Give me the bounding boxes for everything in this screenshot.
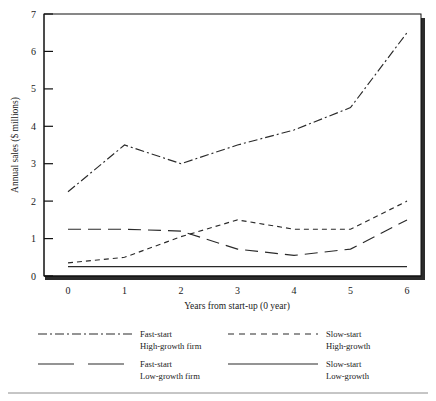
legend-label-line2: High-growth firm — [140, 341, 202, 351]
legend-label-line2: High-growth — [326, 341, 371, 351]
x-tick-label: 6 — [405, 285, 410, 296]
x-tick-label: 5 — [348, 285, 353, 296]
legend-label-line2: Low-growth firm — [140, 371, 200, 381]
y-tick-label: 1 — [31, 233, 36, 244]
frame-shadow-bottom — [45, 276, 425, 280]
x-tick-label: 1 — [122, 285, 127, 296]
x-axis-title: Years from start-up (0 year) — [184, 301, 290, 312]
legend-label-line1: Fast-start — [140, 359, 173, 369]
y-tick-label: 7 — [31, 9, 36, 20]
y-axis-title: Annual sales ($ millions) — [10, 97, 21, 193]
y-tick-label: 6 — [31, 46, 36, 57]
y-tick-label: 0 — [31, 271, 36, 282]
frame-shadow-right — [421, 18, 425, 280]
x-tick-label: 2 — [179, 285, 184, 296]
y-tick-label: 3 — [31, 158, 36, 169]
x-tick-label: 4 — [292, 285, 297, 296]
chart-figure: 0 1 2 3 4 5 6 7 0 1 2 3 4 5 6 Annual sal… — [0, 0, 436, 401]
x-tick-label: 0 — [66, 285, 71, 296]
y-tick-label: 4 — [31, 121, 36, 132]
y-tick-label: 2 — [31, 196, 36, 207]
figure-background — [0, 0, 436, 401]
legend-label-line1: Slow-start — [326, 329, 362, 339]
legend-label-line1: Fast-start — [140, 329, 173, 339]
x-tick-label: 3 — [235, 285, 240, 296]
legend-label-line1: Slow-start — [326, 359, 362, 369]
legend-label-line2: Low-growth — [326, 371, 370, 381]
y-tick-label: 5 — [31, 83, 36, 94]
